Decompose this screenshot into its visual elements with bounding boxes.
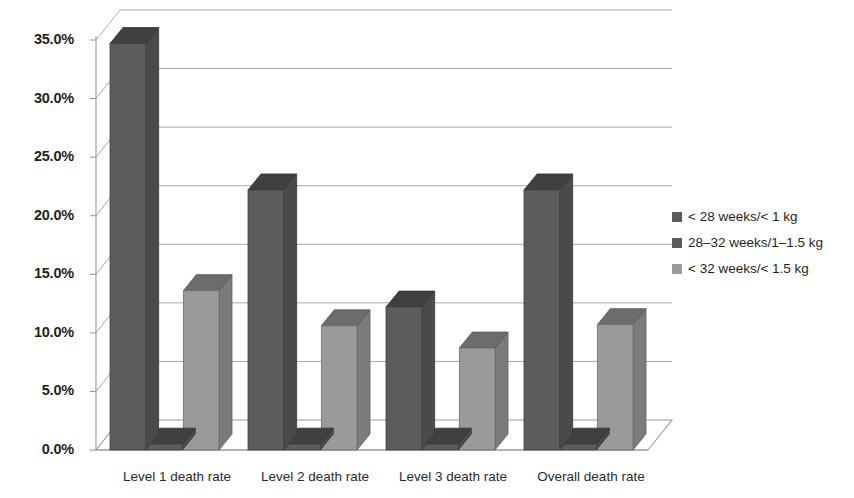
bar-front-face [285, 444, 321, 450]
legend-swatch-icon [672, 238, 682, 248]
bar-side-face [284, 174, 297, 450]
y-axis-tick-labels: 0.0%5.0%10.0%15.0%20.0%25.0%30.0%35.0% [6, 0, 74, 498]
bar [524, 174, 573, 450]
legend-label: < 28 weeks/< 1 kg [688, 210, 798, 224]
legend-item[interactable]: 28–32 weeks/1–1.5 kg [672, 230, 852, 256]
bar-front-face [147, 444, 183, 450]
legend-label: 28–32 weeks/1–1.5 kg [688, 236, 823, 250]
y-axis-tick-label: 10.0% [12, 325, 74, 340]
gridlines-group [96, 10, 672, 391]
x-axis-category-labels: Level 1 death rateLevel 2 death rateLeve… [0, 462, 700, 488]
x-axis-category-label: Level 3 death rate [383, 470, 523, 484]
bar [386, 291, 435, 450]
bar-side-face [633, 309, 646, 450]
y-axis-tick-label: 35.0% [12, 32, 74, 47]
legend-item[interactable]: < 28 weeks/< 1 kg [672, 204, 852, 230]
bar [248, 174, 297, 450]
legend-swatch-icon [672, 264, 682, 274]
bar-side-face [560, 174, 573, 450]
bars-group [110, 28, 646, 450]
bar-front-face [248, 190, 284, 450]
bar-chart: 0.0%5.0%10.0%15.0%20.0%25.0%30.0%35.0% L… [0, 0, 854, 498]
x-axis-category-label: Level 2 death rate [245, 470, 385, 484]
chart-legend: < 28 weeks/< 1 kg28–32 weeks/1–1.5 kg< 3… [672, 204, 852, 282]
bar-front-face [423, 444, 459, 450]
legend-label: < 32 weeks/< 1.5 kg [688, 262, 809, 276]
y-axis-tick-label: 30.0% [12, 91, 74, 106]
y-axis-tick-label: 0.0% [12, 442, 74, 457]
x-axis-category-label: Level 1 death rate [107, 470, 247, 484]
bar-side-face [357, 310, 370, 450]
y-axis-tick-label: 15.0% [12, 266, 74, 281]
bar-side-face [495, 332, 508, 450]
bar [110, 28, 159, 450]
bar-front-face [183, 291, 219, 450]
y-axis-tick-label: 5.0% [12, 383, 74, 398]
bar-side-face [422, 291, 435, 450]
y-axis-tick-label: 20.0% [12, 208, 74, 223]
x-axis-category-label: Overall death rate [521, 470, 661, 484]
bar-front-face [561, 444, 597, 450]
bar-side-face [219, 275, 232, 450]
bar-side-face [146, 28, 159, 450]
y-axis-tick-label: 25.0% [12, 149, 74, 164]
bar-front-face [524, 190, 560, 450]
legend-swatch-icon [672, 212, 682, 222]
bar-front-face [386, 307, 422, 450]
bar [183, 275, 232, 450]
bar-front-face [110, 44, 146, 450]
legend-item[interactable]: < 32 weeks/< 1.5 kg [672, 256, 852, 282]
